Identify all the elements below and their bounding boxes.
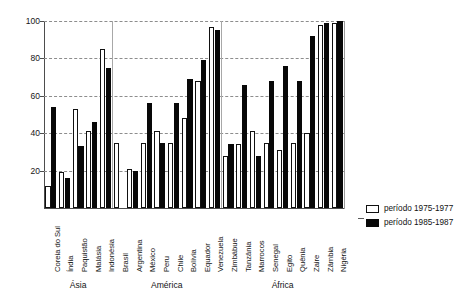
- x-tick-label: Quênia: [299, 248, 307, 273]
- x-tick-label: Marrocos: [258, 240, 266, 272]
- bar-period-1975-1977: [209, 27, 214, 208]
- y-tick-label-20: 20: [31, 166, 40, 175]
- group-label-áfrica: África: [272, 280, 294, 290]
- bar-period-1985-1987: [324, 23, 329, 208]
- x-tick-label: Egito: [286, 255, 294, 272]
- bar-series-container: [44, 21, 344, 208]
- bar-period-1975-1977: [236, 144, 241, 208]
- bar-period-1975-1977: [318, 25, 323, 208]
- x-tick-label: Brasil: [122, 253, 130, 272]
- x-tick-label: Paquistão: [81, 238, 89, 272]
- x-tick-label: Argentina: [136, 239, 144, 272]
- bar-period-1975-1977: [195, 81, 200, 208]
- x-tick-label: Zimbábue: [231, 238, 239, 272]
- plot-area: [44, 21, 344, 208]
- x-tick-label: Bolívia: [190, 249, 198, 272]
- bar-period-1975-1977: [332, 23, 337, 208]
- x-tick-label: Malásia: [95, 246, 103, 272]
- y-axis-ticks: 20406080100: [0, 21, 40, 208]
- bar-period-1975-1977: [264, 143, 269, 208]
- bar-period-1985-1987: [297, 81, 302, 208]
- y-tick-label-80: 80: [31, 54, 40, 63]
- legend-swatch-white: [366, 205, 379, 213]
- legend-item: período 1975-1977: [366, 203, 462, 214]
- bar-period-1985-1987: [269, 81, 274, 208]
- bar-period-1985-1987: [65, 178, 70, 208]
- bar-period-1985-1987: [228, 144, 233, 208]
- group-label-ásia: Ásia: [70, 280, 87, 290]
- bar-period-1975-1977: [277, 150, 282, 208]
- bar-period-1985-1987: [215, 30, 220, 208]
- x-tick-label: Zaire: [313, 255, 321, 272]
- bar-period-1985-1987: [310, 36, 315, 208]
- bar-period-1985-1987: [242, 85, 247, 208]
- x-tick-label: Indonésia: [108, 239, 116, 272]
- x-tick-label: Chile: [177, 255, 185, 272]
- bar-period-1985-1987: [147, 103, 152, 208]
- bar-period-1985-1987: [256, 156, 261, 208]
- x-tick-label: Peru: [163, 256, 171, 272]
- x-axis-line: [44, 208, 345, 209]
- y-tick-label-100: 100: [26, 17, 40, 26]
- x-tick-label: Coreia do Sul: [54, 226, 62, 272]
- group-label-américa: América: [151, 280, 183, 290]
- chart-legend: período 1975-1977período 1985-1987: [366, 203, 462, 231]
- x-axis-category-labels: Coreia do SulÍndiaPaquistãoMalásiaIndoné…: [44, 210, 344, 274]
- x-tick-label: Nigéria: [340, 248, 348, 272]
- bar-period-1985-1987: [51, 107, 56, 208]
- bar-period-1975-1977: [141, 143, 146, 208]
- bar-period-1975-1977: [223, 156, 228, 208]
- legend-leader-line: [358, 218, 364, 219]
- bar-period-1985-1987: [106, 68, 111, 208]
- bar-period-1985-1987: [187, 79, 192, 208]
- bar-period-1975-1977: [114, 143, 119, 208]
- x-tick-label: Tanzânia: [245, 242, 253, 272]
- y-tick-label-60: 60: [31, 92, 40, 101]
- bar-period-1975-1977: [86, 131, 91, 208]
- bar-period-1975-1977: [182, 118, 187, 208]
- bar-period-1975-1977: [250, 131, 255, 208]
- bar-period-1975-1977: [291, 143, 296, 208]
- bar-period-1975-1977: [59, 172, 64, 208]
- x-tick-label: Senegal: [272, 244, 280, 272]
- bar-period-1985-1987: [78, 146, 83, 208]
- bar-period-1985-1987: [160, 143, 165, 208]
- bar-period-1975-1977: [154, 131, 159, 208]
- x-tick-label: Zâmbia: [327, 247, 335, 272]
- bar-period-1985-1987: [133, 171, 138, 208]
- bar-period-1975-1977: [127, 169, 132, 208]
- bar-period-1985-1987: [92, 122, 97, 208]
- x-tick-label: Venezuela: [217, 237, 225, 272]
- y-tick-label-40: 40: [31, 129, 40, 138]
- chart-figure: 20406080100 Coreia do SulÍndiaPaquistãoM…: [0, 0, 464, 303]
- bar-period-1985-1987: [337, 21, 342, 208]
- plot-right-border: [344, 21, 345, 209]
- x-tick-label: Equador: [204, 243, 212, 272]
- legend-swatch-black: [366, 219, 379, 227]
- bar-period-1985-1987: [174, 103, 179, 208]
- bar-period-1985-1987: [283, 66, 288, 208]
- legend-label: período 1975-1977: [384, 204, 453, 213]
- bar-period-1975-1977: [100, 49, 105, 208]
- x-axis-group-labels: ÁsiaAméricaÁfrica: [44, 280, 344, 294]
- bar-period-1975-1977: [168, 143, 173, 208]
- bar-period-1975-1977: [73, 109, 78, 208]
- legend-item: período 1985-1987: [366, 217, 462, 228]
- legend-label: período 1985-1987: [384, 218, 453, 227]
- bar-period-1975-1977: [304, 133, 309, 208]
- x-tick-label: Índia: [67, 256, 75, 272]
- x-tick-label: México: [149, 248, 157, 272]
- bar-period-1975-1977: [45, 186, 50, 208]
- bar-period-1985-1987: [201, 60, 206, 208]
